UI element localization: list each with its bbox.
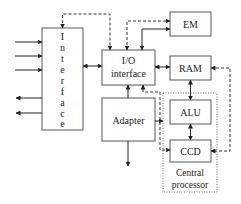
external-input-arrows [15,42,42,70]
adapter-label: Adapter [112,115,145,126]
ram-label: RAM [179,63,202,74]
block-diagram: I n t e r f a c e I/O interface EM [0,0,241,204]
em-block: EM [170,12,211,36]
io-interface-label-1: I/O [122,55,135,66]
em-label: EM [183,19,198,30]
ccd-block: CCD [170,140,211,162]
ram-block: RAM [170,56,211,80]
interface-letter: e [60,64,65,75]
central-processor-label-1: Central [176,168,204,178]
alu-label: ALU [180,107,201,118]
adapter-block: Adapter [102,98,155,141]
interface-block: I n t e r f a c e [42,28,83,130]
central-processor-label-2: processor [172,180,209,190]
io-interface-block: I/O interface [102,50,155,85]
io-interface-label-2: interface [111,68,147,79]
io-em-solid-link [142,29,170,50]
external-output-arrows [16,98,42,113]
io-em-dashed-link [127,21,170,50]
alu-block: ALU [170,100,211,124]
interface-letter: I [61,31,64,42]
interface-letter: a [60,97,65,108]
ram-ccd-dashed-link [211,68,230,151]
interface-letter: t [61,53,64,64]
ccd-label: CCD [180,146,201,157]
interface-letter: e [60,118,65,129]
interface-letter: n [60,42,65,53]
